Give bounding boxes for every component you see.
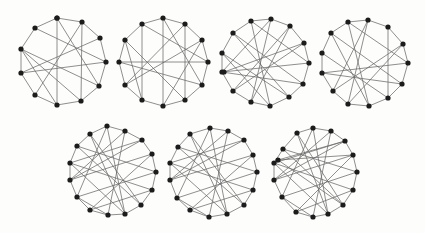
graph-edge	[313, 128, 331, 131]
graph-edge	[322, 73, 402, 84]
graph-edge	[82, 22, 100, 38]
graph-edge	[185, 24, 202, 40]
graph-edge	[328, 205, 343, 214]
graph-edge	[251, 21, 309, 63]
graph-node	[301, 40, 306, 45]
graph-edge	[331, 22, 348, 33]
graph-edge	[142, 18, 163, 24]
graph-edge	[322, 73, 333, 91]
graph-node	[248, 99, 253, 104]
graph-node	[254, 169, 259, 174]
graph-edge	[278, 160, 343, 205]
graph-node	[97, 35, 102, 40]
graph-node	[167, 160, 172, 165]
graph-node	[139, 97, 144, 102]
graph-node	[221, 69, 226, 74]
graph-node	[287, 23, 292, 28]
graph-edge	[70, 180, 77, 197]
graph-edge	[388, 84, 402, 98]
graph-edge	[290, 26, 304, 43]
graph-node	[225, 128, 230, 133]
graph-node	[345, 19, 350, 24]
graph-edge	[178, 134, 190, 147]
graph-node	[366, 103, 371, 108]
graph-edge	[271, 19, 290, 26]
graph-edge	[209, 214, 227, 217]
graph-edge	[233, 91, 251, 102]
graph-node	[293, 209, 298, 214]
graph-node	[319, 50, 324, 55]
graph-node	[345, 101, 350, 106]
graph-edge	[333, 91, 348, 104]
graph-node	[187, 131, 192, 136]
graph-node	[399, 81, 404, 86]
graph-node	[365, 17, 370, 22]
graph-node	[54, 15, 59, 20]
graph-edge	[185, 85, 202, 100]
random-graphs-figure	[0, 0, 425, 233]
graph-edge	[125, 40, 185, 100]
graph-node	[328, 128, 333, 133]
graph-node	[325, 211, 330, 216]
graph-node	[103, 59, 108, 64]
graph-edge	[99, 62, 106, 86]
graph-node	[138, 202, 143, 207]
graph-node	[182, 97, 187, 102]
graph-node	[350, 187, 355, 192]
graph-edge	[125, 24, 142, 40]
graph-node	[87, 131, 92, 136]
graph-node	[160, 103, 165, 108]
graph-2	[116, 15, 210, 108]
graph-edge	[70, 146, 77, 163]
graph-node	[122, 37, 127, 42]
graph-edge	[202, 62, 208, 85]
graph-node	[67, 177, 72, 182]
graph-edge	[125, 205, 141, 214]
graph-node	[74, 194, 79, 199]
graph-node	[79, 19, 84, 24]
graph-edge	[90, 154, 152, 210]
graph-5	[67, 123, 158, 217]
graph-edge	[402, 63, 408, 84]
graph-node	[219, 50, 224, 55]
graph-7	[271, 125, 359, 219]
graph-edge	[21, 73, 35, 95]
graph-node	[207, 125, 212, 130]
graph-edge	[81, 22, 82, 101]
graph-node	[18, 70, 23, 75]
graph-node	[175, 144, 180, 149]
graph-node	[167, 177, 172, 182]
graph-edge	[21, 28, 35, 49]
graph-edge	[253, 172, 257, 190]
graph-node	[149, 151, 154, 156]
graph-edge	[322, 63, 408, 73]
graph-node	[74, 143, 79, 148]
graph-edge	[70, 140, 142, 163]
graph-node	[224, 211, 229, 216]
graph-edge	[244, 140, 253, 155]
graph-node	[306, 60, 311, 65]
graph-node	[139, 137, 144, 142]
graph-edge	[348, 44, 403, 104]
graph-node	[54, 102, 59, 107]
graph-node	[78, 98, 83, 103]
graph-edge	[70, 140, 142, 180]
graph-edge	[57, 101, 81, 105]
graph-node	[149, 187, 154, 192]
graph-node	[153, 169, 158, 174]
graph-node	[160, 15, 165, 20]
graph-node	[328, 30, 333, 35]
graph-edge	[141, 190, 152, 205]
graph-edge	[251, 19, 271, 21]
graph-node	[199, 37, 204, 42]
graph-3	[219, 16, 311, 108]
graph-edge	[35, 18, 57, 28]
graph-node	[67, 160, 72, 165]
graph-node	[279, 194, 284, 199]
graph-edge	[190, 128, 210, 134]
graph-node	[230, 30, 235, 35]
graph-node	[241, 202, 246, 207]
graph-edge	[142, 24, 208, 62]
graph-edge	[283, 133, 297, 149]
graph-edge	[297, 133, 328, 214]
